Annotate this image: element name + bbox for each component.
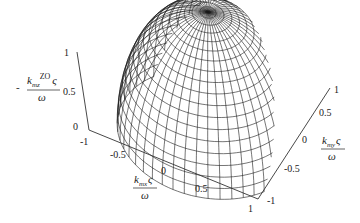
- hemisphere-wireframe-surface: [117, 0, 274, 199]
- svg-text:ω: ω: [38, 91, 46, 103]
- y-axis-label: kmyς ω: [321, 134, 345, 162]
- svg-text:kmyς: kmyς: [322, 134, 341, 149]
- hemisphere-3d-plot: 1 0.5 0 -1 -0.5 0 0.5 1 -1 -0.5 0 0.5 1 …: [0, 0, 360, 223]
- x-axis: [89, 130, 258, 199]
- svg-text:-: -: [16, 81, 20, 93]
- y-axis: [258, 88, 330, 199]
- svg-text:ω: ω: [328, 150, 336, 162]
- x-axis-ticks: -1 -0.5 0 0.5 1: [80, 136, 253, 214]
- y-tick: 0: [302, 134, 307, 145]
- x-tick: 0: [161, 165, 166, 176]
- svg-text:kmxς: kmxς: [134, 173, 153, 188]
- z-tick: 0.5: [63, 86, 76, 97]
- z-axis: [77, 52, 89, 130]
- z-tick: 0: [73, 121, 78, 132]
- z-axis-label: - kmzZOς ω: [16, 72, 60, 103]
- x-axis-label: kmxς ω: [133, 173, 157, 201]
- svg-text:kmzZOς: kmzZOς: [27, 72, 57, 89]
- y-tick: 0.5: [319, 107, 332, 118]
- x-tick: -0.5: [110, 149, 126, 160]
- x-tick: 0.5: [195, 183, 208, 194]
- x-tick: -1: [80, 136, 88, 147]
- y-tick: 1: [334, 84, 339, 95]
- z-tick: 1: [64, 47, 69, 58]
- z-axis-ticks: 1 0.5 0: [63, 47, 78, 132]
- y-tick: -1: [267, 195, 275, 206]
- svg-text:ω: ω: [141, 189, 149, 201]
- y-tick: -0.5: [284, 163, 300, 174]
- x-tick: 1: [248, 203, 253, 214]
